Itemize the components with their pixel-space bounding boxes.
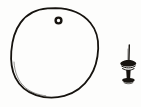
- round-fruit-contour-accent: [14, 62, 46, 96]
- screw-base: [122, 78, 134, 83]
- ink-drawing: [0, 0, 141, 107]
- stem-scar-ring: [56, 18, 62, 24]
- sketch-canvas: Hand-drawn sketch of a round fruit besid…: [0, 0, 141, 107]
- screw-neck: [126, 70, 130, 79]
- stem-scar: [56, 18, 62, 24]
- screw-knob-ridge-lower: [123, 69, 134, 71]
- round-fruit: [11, 8, 98, 97]
- screw-knob: [120, 60, 136, 67]
- screw: [120, 45, 136, 84]
